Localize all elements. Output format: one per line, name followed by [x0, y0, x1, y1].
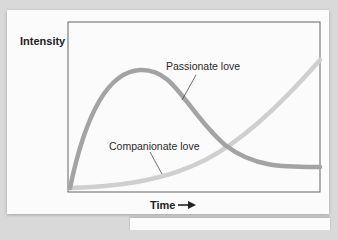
companionate-love-label: Companionate love	[109, 140, 199, 152]
passionate-love-label: Passionate love	[166, 60, 240, 72]
y-axis-label: Intensity	[20, 35, 65, 47]
right-arrow-icon	[177, 200, 197, 210]
companionate-leader-line	[150, 152, 162, 174]
passionate-leader-line	[182, 75, 196, 100]
x-axis-label: Time	[150, 199, 197, 211]
companionate-love-line	[70, 60, 320, 188]
passionate-love-line	[70, 70, 320, 188]
x-axis-label-text: Time	[150, 199, 175, 211]
